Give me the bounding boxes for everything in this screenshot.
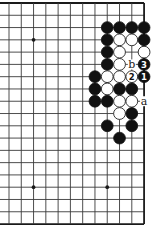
black-stone [101,59,113,71]
black-stone: 1 [138,71,150,83]
black-stone-disc [89,95,101,107]
black-stone [89,83,101,95]
black-stone-disc [101,95,113,107]
point-label-b: b [128,58,136,71]
black-stone-disc [89,71,101,83]
star-point [32,38,36,42]
white-stone [114,71,126,83]
white-stone [126,95,138,107]
white-stone [114,34,126,46]
star-point [32,185,36,189]
black-stone-disc [101,22,113,34]
black-stone [126,83,138,95]
black-stone-disc [101,120,113,132]
black-stone-disc [101,59,113,71]
white-stone: 2 [126,71,138,83]
black-stone: 3 [138,59,150,71]
black-stone [114,22,126,34]
move-number: 2 [129,72,135,82]
white-stone-disc [114,59,126,71]
black-stone [89,71,101,83]
black-stone-disc [114,83,126,95]
label-text: b [128,58,135,71]
black-stone-disc [126,120,138,132]
white-stone-disc [114,34,126,46]
label-text: a [141,95,148,108]
black-stone-disc [89,83,101,95]
black-stone-disc [138,34,150,46]
black-stone [89,95,101,107]
white-stone [126,34,138,46]
black-stone [126,120,138,132]
black-stone [101,120,113,132]
white-stone-disc [126,95,138,107]
black-stone-disc [114,132,126,144]
white-stone-disc [114,95,126,107]
black-stone-disc [101,34,113,46]
black-stone-disc [101,46,113,58]
star-point [105,185,109,189]
white-stone-disc [101,71,113,83]
black-stone [101,34,113,46]
black-stone-disc [126,83,138,95]
white-stone [101,83,113,95]
black-stone-disc [126,22,138,34]
white-stone [114,46,126,58]
black-stone [114,83,126,95]
black-stone [101,46,113,58]
black-stone [126,108,138,120]
move-number: 1 [141,72,147,82]
go-board: 321 ba [0,0,151,230]
white-stone-disc [114,71,126,83]
black-stone [101,22,113,34]
white-stone-disc [126,34,138,46]
white-stone [114,95,126,107]
white-stone [114,59,126,71]
black-stone [138,34,150,46]
white-stone [114,108,126,120]
white-stone-disc [114,108,126,120]
white-stone-disc [138,46,150,58]
point-label-a: a [140,95,148,108]
black-stone-disc [114,22,126,34]
white-stone-disc [101,83,113,95]
black-stone [138,22,150,34]
black-stone [114,132,126,144]
move-number: 3 [141,60,147,70]
black-stone-disc [126,108,138,120]
black-stone [101,95,113,107]
black-stone [126,22,138,34]
white-stone [138,46,150,58]
white-stone [101,71,113,83]
black-stone-disc [138,22,150,34]
white-stone-disc [114,46,126,58]
